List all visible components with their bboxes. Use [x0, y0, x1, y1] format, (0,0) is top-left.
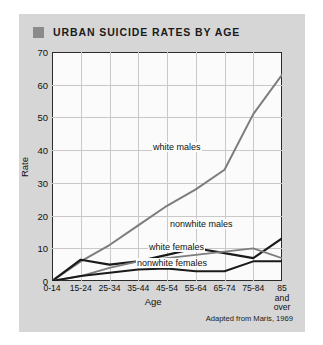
y-tick-label: 50 [37, 112, 48, 123]
chart-title-text: URBAN SUICIDE RATES BY AGE [53, 26, 240, 38]
series-label-nonwhite-females: nonwhite females [136, 258, 208, 268]
y-tick-label: 60 [37, 79, 48, 90]
y-tick-label: 20 [37, 210, 48, 221]
y-tick-label: 40 [37, 145, 48, 156]
x-tick-label: 65-74 [214, 284, 236, 294]
x-tick-label: 75-84 [242, 284, 264, 294]
x-tick-label: 0-14 [43, 284, 60, 294]
chart-figure: URBAN SUICIDE RATES BY AGE 0102030405060… [19, 14, 305, 332]
chart-credit: Adapted from Maris, 1969 [206, 314, 293, 323]
y-tick-label: 30 [37, 177, 48, 188]
x-tick-label: 15-24 [70, 284, 92, 294]
x-tick-label: 25-34 [99, 284, 121, 294]
y-tick-label: 70 [37, 47, 48, 58]
series-label-nonwhite-males: nonwhite males [169, 219, 234, 229]
y-axis-label: Rate [19, 156, 30, 176]
x-axis-label: Age [145, 296, 162, 307]
x-tick-label: 35-44 [127, 284, 149, 294]
title-bullet-icon [33, 27, 44, 38]
x-tick-label: 85 and over [274, 284, 291, 313]
series-label-white-males: white males [152, 142, 202, 152]
x-tick-label: 45-54 [156, 284, 178, 294]
series-label-white-females: white females [148, 242, 205, 252]
chart-title: URBAN SUICIDE RATES BY AGE [33, 26, 240, 38]
x-tick-label: 55-64 [185, 284, 207, 294]
plot-area: 010203040506070 Rate 0-1415-2425-3435-44… [52, 52, 282, 281]
y-tick-label: 10 [37, 243, 48, 254]
